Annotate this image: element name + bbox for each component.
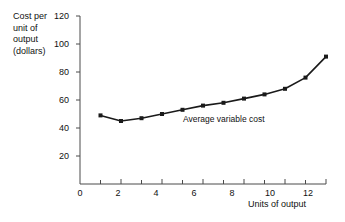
data-point-5 <box>181 108 185 112</box>
data-point-7 <box>222 101 226 105</box>
data-line-average-variable-cost <box>101 57 327 121</box>
data-point-11 <box>304 76 308 80</box>
data-point-2 <box>119 119 123 123</box>
data-point-4 <box>160 112 164 116</box>
data-point-9 <box>263 92 267 96</box>
data-point-12 <box>324 55 328 59</box>
data-point-8 <box>242 97 246 101</box>
y-axis-ticks <box>76 16 80 156</box>
axis-lines <box>80 16 326 184</box>
data-point-10 <box>283 87 287 91</box>
x-axis-ticks <box>101 179 327 184</box>
plot-area <box>0 0 345 222</box>
data-point-1 <box>99 113 103 117</box>
data-point-6 <box>201 104 205 108</box>
data-point-markers <box>99 55 329 123</box>
data-point-3 <box>140 116 144 120</box>
chart-container: Cost perunit ofoutput(dollars) 120 100 8… <box>0 0 345 222</box>
